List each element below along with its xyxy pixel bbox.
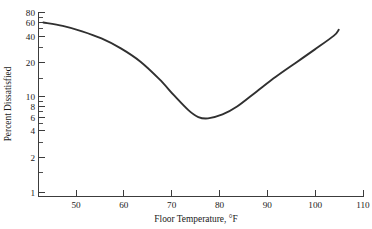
x-tick-label: 60 bbox=[119, 200, 129, 210]
percent-dissatisfied-vs-floor-temperature-chart: 80 60 40 20 10 8 6 4 2 1 50 60 70 80 bbox=[0, 0, 372, 229]
y-axis-minor-ticks bbox=[39, 17, 43, 172]
data-series-curve bbox=[43, 22, 338, 118]
y-tick-label: 20 bbox=[26, 58, 36, 68]
x-axis-tick-labels: 50 60 70 80 90 100 110 bbox=[71, 200, 370, 210]
y-tick-label: 10 bbox=[26, 92, 36, 102]
x-axis-ticks bbox=[76, 190, 363, 197]
y-tick-label: 6 bbox=[30, 113, 35, 123]
axis-lines bbox=[39, 12, 364, 197]
y-axis-tick-labels: 80 60 40 20 10 8 6 4 2 1 bbox=[26, 8, 36, 198]
axes bbox=[39, 12, 364, 197]
x-tick-label: 100 bbox=[308, 200, 322, 210]
x-tick-label: 110 bbox=[356, 200, 370, 210]
y-tick-label: 2 bbox=[30, 153, 35, 163]
x-tick-label: 50 bbox=[71, 200, 81, 210]
y-tick-label: 60 bbox=[26, 18, 36, 28]
x-tick-label: 80 bbox=[215, 200, 225, 210]
x-axis-title: Floor Temperature, °F bbox=[154, 214, 237, 224]
y-axis-title: Percent Dissatisfied bbox=[3, 66, 13, 141]
x-tick-label: 90 bbox=[263, 200, 273, 210]
y-axis-major-ticks bbox=[39, 12, 46, 192]
y-tick-label: 80 bbox=[26, 8, 36, 18]
y-tick-label: 8 bbox=[30, 102, 35, 112]
y-tick-label: 1 bbox=[30, 188, 35, 198]
y-tick-label: 40 bbox=[26, 32, 36, 42]
chart-figure: 80 60 40 20 10 8 6 4 2 1 50 60 70 80 bbox=[0, 0, 372, 229]
y-tick-label: 4 bbox=[30, 126, 35, 136]
x-tick-label: 70 bbox=[167, 200, 177, 210]
